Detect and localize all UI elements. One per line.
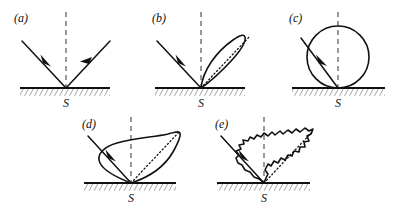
panel-e-scatter-lobe bbox=[236, 128, 313, 183]
panel-a-incident-ray bbox=[22, 41, 66, 88]
panel-e-point-label: S bbox=[261, 191, 267, 205]
panel-b-point-label: S bbox=[198, 96, 204, 110]
panel-a-label: (a) bbox=[14, 11, 28, 25]
panel-e: (e) S bbox=[215, 117, 313, 205]
panel-b: (b) S bbox=[152, 11, 250, 110]
panel-a: (a) S bbox=[14, 11, 110, 110]
panel-e-surface bbox=[217, 183, 310, 191]
panel-e-incident-ray bbox=[221, 136, 264, 183]
panel-e-specular-axis bbox=[264, 131, 313, 183]
panel-e-label: (e) bbox=[215, 117, 228, 131]
panel-d-incident-ray bbox=[88, 136, 131, 183]
panel-c-incident-ray bbox=[301, 38, 338, 88]
panel-a-surface bbox=[20, 88, 110, 96]
figure-canvas: (a) S (b) bbox=[0, 0, 403, 219]
panel-b-scatter-lobe bbox=[201, 35, 245, 88]
panel-c: (c) S bbox=[289, 11, 385, 110]
panel-c-point-label: S bbox=[335, 96, 341, 110]
scattering-distribution-figure: (a) S (b) bbox=[0, 0, 403, 219]
panel-b-specular-axis bbox=[201, 36, 250, 88]
panel-a-point-label: S bbox=[63, 96, 69, 110]
panel-d-surface bbox=[84, 183, 176, 191]
panel-c-surface bbox=[292, 88, 385, 96]
panel-b-surface bbox=[155, 88, 245, 96]
panel-d-point-label: S bbox=[128, 191, 134, 205]
panel-a-reflected-ray bbox=[66, 41, 110, 88]
panel-c-label: (c) bbox=[289, 11, 302, 25]
panel-d: (d) S bbox=[82, 117, 180, 205]
panel-b-label: (b) bbox=[152, 11, 166, 25]
panel-d-label: (d) bbox=[82, 117, 96, 131]
panel-b-incident-ray bbox=[157, 41, 201, 88]
